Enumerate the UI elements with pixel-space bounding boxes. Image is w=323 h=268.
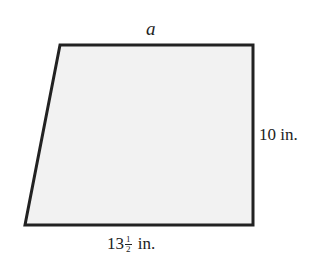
bottom-unit: in.: [138, 234, 155, 253]
bottom-fraction: 12: [125, 235, 132, 254]
right-side-label: 10 in.: [259, 125, 298, 145]
bottom-side-label: 1312 in.: [107, 234, 155, 255]
bottom-whole: 13: [107, 234, 124, 253]
trapezoid-shape: [25, 45, 253, 225]
top-side-label: a: [146, 18, 156, 40]
